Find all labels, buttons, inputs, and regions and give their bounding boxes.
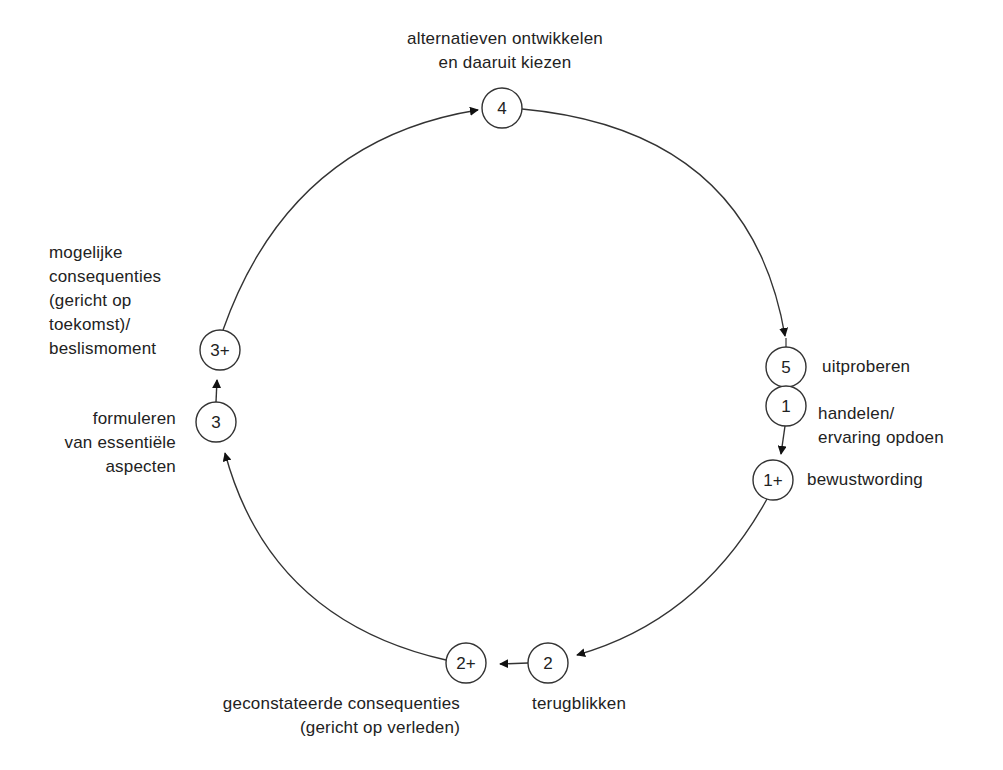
node-1plus: 1+ — [753, 460, 793, 500]
label-node-3plus: mogelijke consequenties (gericht op toek… — [49, 241, 161, 361]
label-node-1: handelen/ ervaring opdoen — [818, 402, 944, 450]
edge-4-to-5 — [522, 109, 785, 336]
label-line: handelen/ — [818, 402, 944, 426]
node-label: 2 — [543, 654, 552, 673]
node-label: 4 — [497, 99, 506, 118]
label-node-4: alternatieven ontwikkelen en daaruit kie… — [380, 27, 630, 75]
node-label: 1 — [781, 397, 790, 416]
edge-3-to-3plus — [216, 380, 217, 402]
label-line: consequenties — [49, 265, 161, 289]
node-5: 5 — [766, 347, 806, 387]
label-line: toekomst)/ — [49, 313, 161, 337]
label-node-3: formuleren van essentiële aspecten — [30, 407, 176, 479]
node-label: 3 — [211, 413, 220, 432]
edge-1plus-to-2 — [577, 499, 767, 655]
edge-3plus-to-4 — [223, 110, 478, 330]
label-line: aspecten — [30, 455, 176, 479]
node-label: 1+ — [763, 471, 782, 490]
node-3plus: 3+ — [200, 330, 240, 370]
node-4: 4 — [482, 88, 522, 128]
edge-2-to-2plus — [500, 663, 528, 664]
label-line: ervaring opdoen — [818, 426, 944, 450]
label-line: (gericht op — [49, 289, 161, 313]
node-2plus: 2+ — [446, 643, 486, 683]
label-node-2: terugblikken — [532, 692, 626, 716]
label-line: bewustwording — [807, 468, 923, 492]
label-line: terugblikken — [532, 692, 626, 716]
edge-1-to-1plus — [781, 426, 785, 454]
label-node-1plus: bewustwording — [807, 468, 923, 492]
label-line: beslismoment — [49, 337, 161, 361]
label-line: uitproberen — [822, 355, 910, 379]
node-3: 3 — [196, 402, 236, 442]
label-line: en daaruit kiezen — [380, 51, 630, 75]
label-line: (gericht op verleden) — [160, 716, 460, 740]
label-line: alternatieven ontwikkelen — [380, 27, 630, 51]
node-1: 1 — [766, 386, 806, 426]
label-line: mogelijke — [49, 241, 161, 265]
node-label: 5 — [781, 358, 790, 377]
node-label: 3+ — [210, 341, 229, 360]
cycle-diagram: 4 5 1 1+ 2 2+ 3 3+ — [0, 0, 1003, 770]
label-line: formuleren — [30, 407, 176, 431]
label-line: van essentiële — [30, 431, 176, 455]
node-2: 2 — [528, 643, 568, 683]
label-node-2plus: geconstateerde consequenties (gericht op… — [160, 692, 460, 740]
label-node-5: uitproberen — [822, 355, 910, 379]
edge-2plus-to-3 — [225, 453, 446, 660]
node-label: 2+ — [456, 654, 475, 673]
label-line: geconstateerde consequenties — [160, 692, 460, 716]
